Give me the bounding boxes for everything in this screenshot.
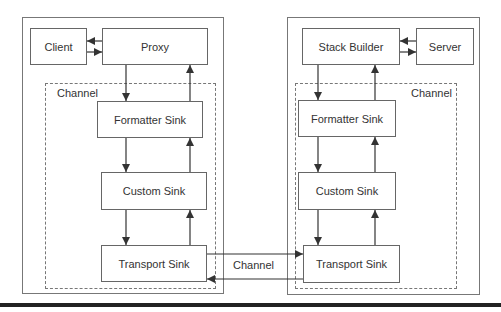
bottom-rule <box>0 303 501 307</box>
flow-arrows <box>0 0 501 312</box>
